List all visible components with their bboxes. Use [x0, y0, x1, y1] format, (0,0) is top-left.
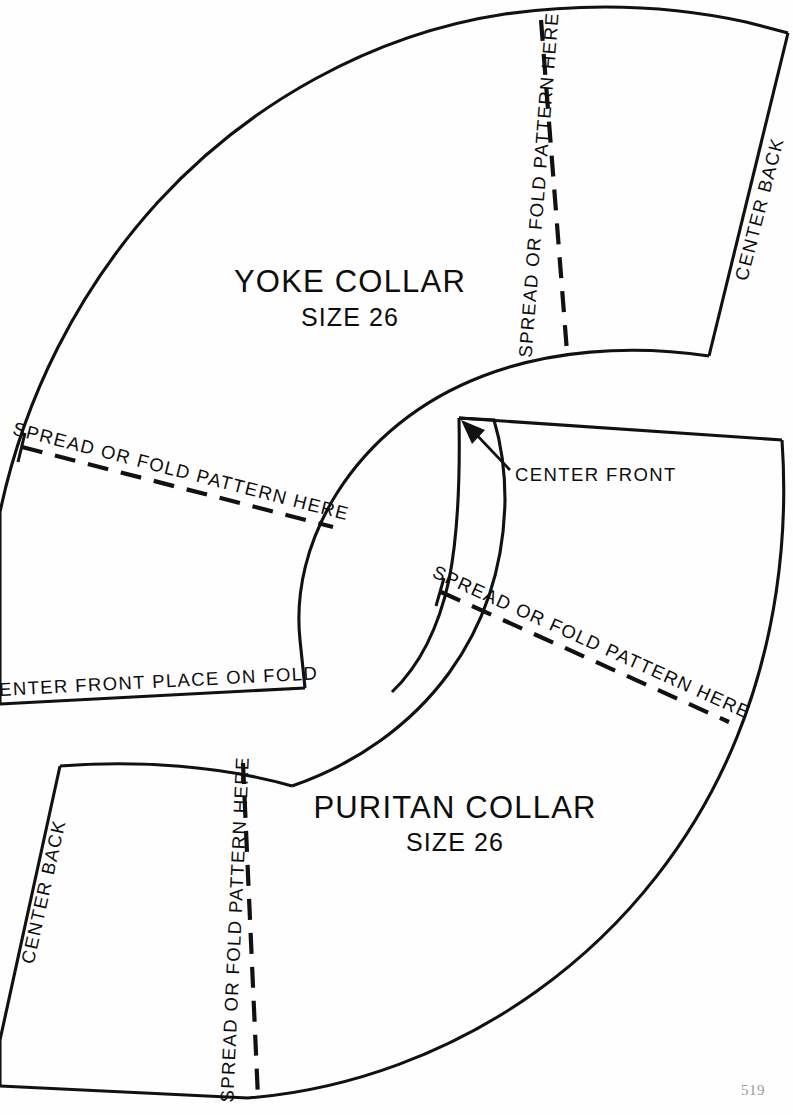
puritan-fold-diagonal-text: SPREAD OR FOLD PATTERN HERE: [430, 561, 754, 723]
puritan-center-front-text: CENTER FRONT: [515, 464, 677, 485]
puritan-bottom-edge: [0, 1086, 248, 1098]
puritan-inner-arc: [60, 764, 292, 786]
puritan-center-front-edge: [392, 418, 459, 692]
pattern-sheet: YOKE COLLAR SIZE 26 PURITAN COLLAR SIZE …: [0, 0, 793, 1115]
puritan-fold-lower-text: SPREAD OR FOLD PATTERN HERE: [216, 756, 253, 1103]
yoke-outer-arc: [0, 7, 788, 512]
puritan-fold-diagonal-line: [441, 592, 729, 722]
yoke-fold-upper-text: SPREAD OR FOLD PATTERN HERE: [514, 11, 562, 358]
yoke-collar-size: SIZE 26: [301, 303, 399, 331]
puritan-inner-arc-upper: [292, 418, 505, 786]
pattern-drawing: YOKE COLLAR SIZE 26 PURITAN COLLAR SIZE …: [0, 0, 793, 1115]
yoke-fold-upper-label: SPREAD OR FOLD PATTERN HERE: [514, 11, 562, 358]
yoke-collar-title: YOKE COLLAR: [234, 264, 466, 299]
yoke-collar-outline: [0, 7, 788, 704]
center-front-callout: [461, 420, 510, 470]
puritan-center-back-text: CENTER BACK: [17, 818, 70, 966]
puritan-outer-arc: [248, 440, 784, 1098]
puritan-fold-diagonal-label: SPREAD OR FOLD PATTERN HERE: [430, 561, 754, 723]
yoke-center-back-edge: [709, 33, 788, 356]
page-number: 519: [741, 1082, 765, 1099]
puritan-collar-size: SIZE 26: [406, 828, 504, 856]
yoke-fold-left-label: SPREAD OR FOLD PATTERN HERE: [11, 418, 352, 525]
puritan-center-back-label: CENTER BACK: [17, 818, 70, 966]
puritan-fold-lower-label: SPREAD OR FOLD PATTERN HERE: [216, 756, 253, 1103]
puritan-top-edge: [459, 418, 782, 440]
yoke-fold-left-text: SPREAD OR FOLD PATTERN HERE: [11, 418, 352, 525]
puritan-collar-outline: [0, 418, 784, 1098]
fold-lines: [18, 20, 729, 1098]
puritan-collar-title: PURITAN COLLAR: [313, 790, 596, 825]
